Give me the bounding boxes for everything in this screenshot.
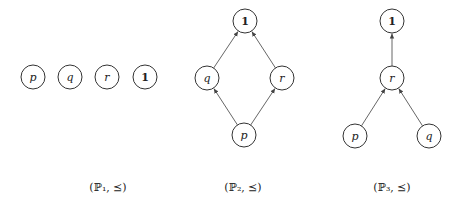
edge-p-to-r [361, 89, 385, 126]
node-label: p [29, 71, 36, 84]
node-one: 1 [133, 65, 157, 89]
node-label: 1 [141, 71, 149, 84]
node-r: r [95, 65, 119, 89]
node-one: 1 [233, 9, 257, 33]
node-p: p [343, 124, 367, 148]
node-label: q [203, 72, 210, 85]
node-label: q [66, 71, 73, 84]
edge-q-to-r [399, 89, 423, 126]
node-label: p [240, 129, 247, 142]
node-label: q [425, 130, 432, 143]
node-r: r [380, 66, 404, 90]
diagram-p1: pqr1(ℙ₁, ⪯) [21, 65, 157, 194]
node-p: p [232, 123, 256, 147]
diagram-caption: (ℙ₁, ⪯) [89, 181, 126, 194]
node-q: q [58, 65, 82, 89]
node-label: 1 [388, 15, 396, 28]
node-label: 1 [241, 15, 249, 28]
diagram-caption: (ℙ₃, ⪯) [373, 181, 410, 194]
node-q: q [195, 66, 219, 90]
diagram-caption: (ℙ₂, ⪯) [224, 181, 261, 194]
diagram-p2: 1qrp(ℙ₂, ⪯) [195, 9, 294, 194]
node-label: r [389, 72, 395, 85]
edge-p-to-r [251, 88, 275, 125]
node-p: p [21, 65, 45, 89]
hasse-diagrams-canvas: pqr1(ℙ₁, ⪯)1qrp(ℙ₂, ⪯)1rpq(ℙ₃, ⪯) [0, 0, 462, 205]
node-one: 1 [380, 9, 404, 33]
node-label: p [351, 130, 358, 143]
edge-p-to-q [214, 88, 238, 124]
node-q: q [417, 124, 441, 148]
diagram-p3: 1rpq(ℙ₃, ⪯) [343, 9, 441, 194]
node-label: r [104, 71, 110, 84]
edge-r-to-one [252, 31, 276, 67]
node-r: r [270, 66, 294, 90]
edge-q-to-one [214, 31, 238, 68]
node-label: r [279, 72, 285, 85]
